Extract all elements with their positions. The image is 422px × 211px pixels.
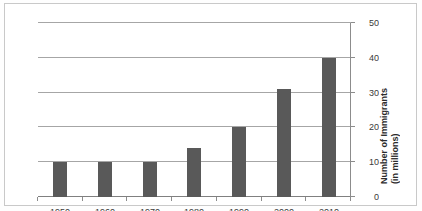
category-tick	[82, 197, 83, 201]
value-axis-title: Number of Immigrants (in millions)	[379, 144, 401, 184]
bar	[277, 89, 291, 197]
value-axis	[350, 23, 351, 197]
category-label: 2010	[307, 207, 351, 211]
value-tick	[351, 57, 355, 58]
category-tick	[350, 197, 351, 201]
category-label: 1970	[128, 207, 172, 211]
value-tick	[351, 196, 355, 197]
value-axis-title-line1: Number of Immigrants	[379, 144, 390, 184]
gridline	[38, 92, 351, 93]
gridline	[38, 57, 351, 58]
bar	[98, 162, 112, 197]
bar	[53, 162, 67, 197]
value-tick-label: 20	[357, 123, 379, 132]
gridline	[38, 22, 351, 23]
value-tick	[351, 92, 355, 93]
category-tick	[216, 197, 217, 201]
plot-area: 01020304050 2010200019901980197019601950	[38, 23, 351, 197]
category-tick	[305, 197, 306, 201]
category-label: 1980	[173, 207, 217, 211]
value-tick-label: 0	[357, 193, 379, 202]
value-tick-label: 30	[357, 89, 379, 98]
category-label: 1950	[38, 207, 82, 211]
category-tick	[37, 197, 38, 201]
value-tick-label: 10	[357, 158, 379, 167]
category-tick	[126, 197, 127, 201]
bar	[188, 148, 202, 197]
value-axis-title-line2: (in millions)	[390, 144, 401, 184]
category-tick	[171, 197, 172, 201]
gridline	[38, 126, 351, 127]
value-tick	[351, 126, 355, 127]
value-tick-label: 40	[357, 54, 379, 63]
bar	[143, 162, 157, 197]
bar-chart-canvas: 01020304050 2010200019901980197019601950…	[5, 4, 416, 205]
bar	[232, 127, 246, 197]
bar	[322, 58, 336, 197]
value-tick	[351, 22, 355, 23]
category-label: 1960	[83, 207, 127, 211]
category-tick	[261, 197, 262, 201]
category-label: 1990	[217, 207, 261, 211]
category-label: 2000	[262, 207, 306, 211]
value-tick	[351, 161, 355, 162]
chart-figure: 01020304050 2010200019901980197019601950…	[0, 0, 422, 211]
value-tick-label: 50	[357, 19, 379, 28]
